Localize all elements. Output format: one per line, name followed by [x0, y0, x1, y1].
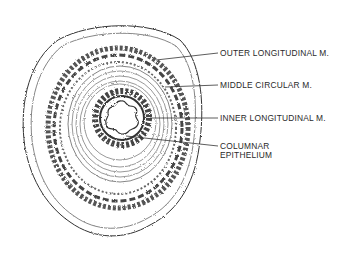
- leader-columnar: [126, 136, 218, 146]
- label-inner-longitudinal: INNER LONGITUDINAL M.: [220, 114, 326, 123]
- label-outer-longitudinal: OUTER LONGITUDINAL M.: [220, 49, 329, 58]
- label-epithelium: EPITHELIUM: [220, 151, 272, 160]
- cross-section-illustration: [0, 0, 348, 254]
- tissue-drawing: [23, 26, 202, 236]
- label-middle-circular: MIDDLE CIRCULAR M.: [220, 81, 312, 90]
- leader-middle: [165, 85, 218, 87]
- leader-outer: [156, 53, 218, 60]
